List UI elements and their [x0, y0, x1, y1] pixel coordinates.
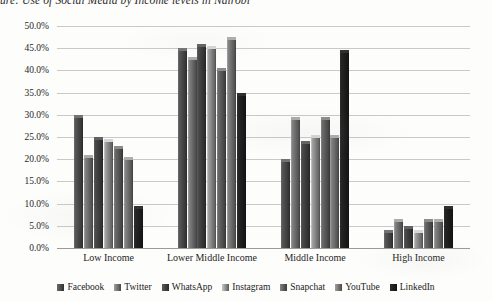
- bar-body: [188, 60, 197, 248]
- bar-body: [424, 222, 433, 248]
- legend-item[interactable]: LinkedIn: [390, 282, 435, 292]
- bar: [394, 219, 403, 248]
- y-axis-tick-label: 50.0%: [24, 21, 49, 31]
- bar: [197, 44, 206, 248]
- bar-body: [178, 51, 187, 248]
- bar-body: [340, 53, 349, 248]
- y-axis-tick-label: 10.0%: [24, 199, 49, 209]
- bar: [237, 93, 246, 248]
- bar: [340, 50, 349, 248]
- bar: [281, 159, 290, 248]
- bar-group: [160, 26, 263, 248]
- plot-area: [57, 26, 470, 248]
- bar: [207, 46, 216, 248]
- bar-body: [114, 149, 123, 248]
- bar: [414, 230, 423, 248]
- bar-group: [264, 26, 367, 248]
- x-axis-tick-label: Middle Income: [284, 252, 345, 263]
- legend-item[interactable]: WhatsApp: [162, 282, 213, 292]
- legend-label: Facebook: [67, 282, 104, 292]
- bar: [178, 48, 187, 248]
- legend-label: WhatsApp: [172, 282, 213, 292]
- bar: [311, 135, 320, 248]
- legend-label: LinkedIn: [400, 282, 435, 292]
- bar: [94, 137, 103, 248]
- bar-body: [74, 118, 83, 248]
- x-axis-category-labels: Low IncomeLower Middle IncomeMiddle Inco…: [57, 252, 470, 270]
- bar-body: [197, 47, 206, 248]
- chart-title: ure: Use of Social Media by Income level…: [0, 0, 492, 7]
- legend-item[interactable]: Facebook: [57, 282, 104, 292]
- legend-label: Instagram: [232, 282, 270, 292]
- legend-swatch-icon: [222, 284, 229, 291]
- y-axis-tick-label: 0.0%: [29, 243, 49, 253]
- bar-body: [321, 120, 330, 248]
- social-media-income-bar-chart: ure: Use of Social Media by Income level…: [0, 0, 492, 301]
- bar-body: [414, 233, 423, 248]
- x-axis-tick-label: Low Income: [83, 252, 134, 263]
- bar-body: [404, 229, 413, 248]
- bar: [188, 57, 197, 248]
- chart-legend: FacebookTwitterWhatsAppInstagramSnapchat…: [0, 282, 492, 292]
- bar: [434, 219, 443, 248]
- bar-body: [104, 142, 113, 248]
- bar: [124, 157, 133, 248]
- bar-body: [94, 140, 103, 248]
- bar: [217, 68, 226, 248]
- y-axis-tick-label: 15.0%: [24, 176, 49, 186]
- bar: [74, 115, 83, 248]
- bar-body: [207, 49, 216, 248]
- bar: [384, 230, 393, 248]
- bar-body: [237, 96, 246, 248]
- bar: [330, 135, 339, 248]
- bar-body: [301, 144, 310, 248]
- legend-item[interactable]: Instagram: [222, 282, 270, 292]
- legend-item[interactable]: YouTube: [335, 282, 380, 292]
- bar: [291, 117, 300, 248]
- legend-swatch-icon: [335, 284, 342, 291]
- legend-label: Snapchat: [290, 282, 325, 292]
- bar: [114, 146, 123, 248]
- y-axis-tick-label: 35.0%: [24, 88, 49, 98]
- y-axis-tick-label: 20.0%: [24, 154, 49, 164]
- bar: [444, 206, 453, 248]
- legend-swatch-icon: [280, 284, 287, 291]
- bar-body: [384, 233, 393, 248]
- bar-body: [84, 158, 93, 248]
- y-axis-tick-label: 25.0%: [24, 132, 49, 142]
- y-axis-labels: 50.0%45.0%40.0%35.0%30.0%25.0%20.0%15.0%…: [0, 26, 53, 248]
- legend-item[interactable]: Twitter: [114, 282, 151, 292]
- bar-body: [394, 222, 403, 248]
- bar-group: [367, 26, 470, 248]
- bar-body: [217, 71, 226, 248]
- x-axis-tick-label: Lower Middle Income: [167, 252, 257, 263]
- bar: [227, 37, 236, 248]
- bar: [104, 139, 113, 248]
- bar: [84, 155, 93, 248]
- bar-body: [311, 138, 320, 248]
- bar-body: [444, 209, 453, 248]
- bar-body: [124, 160, 133, 248]
- bar-body: [281, 162, 290, 248]
- y-axis-tick-label: 5.0%: [29, 221, 49, 231]
- bar-body: [330, 138, 339, 248]
- legend-swatch-icon: [162, 284, 169, 291]
- bar-body: [434, 222, 443, 248]
- bar-body: [134, 209, 143, 248]
- bar-body: [227, 40, 236, 248]
- bar: [134, 206, 143, 248]
- y-axis-tick-label: 40.0%: [24, 65, 49, 75]
- y-axis-tick-label: 30.0%: [24, 110, 49, 120]
- bar: [424, 219, 433, 248]
- bar: [301, 141, 310, 248]
- legend-swatch-icon: [114, 284, 121, 291]
- bar-group: [57, 26, 160, 248]
- gridline: [57, 248, 470, 249]
- legend-label: Twitter: [124, 282, 151, 292]
- bar: [404, 226, 413, 248]
- y-axis-tick-label: 45.0%: [24, 43, 49, 53]
- legend-swatch-icon: [57, 284, 64, 291]
- legend-item[interactable]: Snapchat: [280, 282, 325, 292]
- bar-body: [291, 120, 300, 248]
- legend-swatch-icon: [390, 284, 397, 291]
